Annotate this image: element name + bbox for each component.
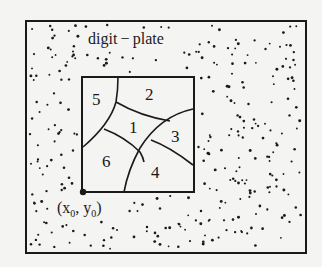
origin-y-text: , y <box>75 199 91 216</box>
region-5-label: 5 <box>92 90 101 110</box>
region-6-label: 6 <box>102 152 111 172</box>
origin-point <box>80 189 86 195</box>
digit-plate-label: digit − plate <box>88 30 164 48</box>
region-2-label: 2 <box>145 85 154 105</box>
origin-close-paren: ) <box>96 199 101 216</box>
origin-coordinate-label: (x0, y0) <box>57 199 102 219</box>
region-1-label: 1 <box>129 118 138 138</box>
region-4-label: 4 <box>151 163 160 183</box>
region-3-label: 3 <box>171 127 180 147</box>
origin-x-text: (x <box>57 199 70 216</box>
